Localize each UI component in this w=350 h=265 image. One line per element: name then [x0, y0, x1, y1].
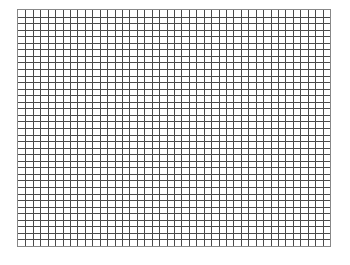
canvas — [0, 0, 350, 265]
grid-lines — [18, 10, 330, 246]
grid-paper — [17, 9, 331, 247]
